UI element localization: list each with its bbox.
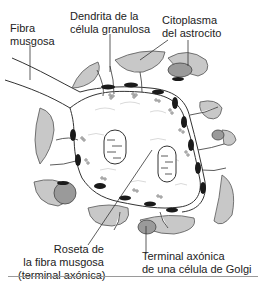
mossy-fiber-axon xyxy=(12,58,80,92)
label-line: célula granulosa xyxy=(70,23,150,36)
label-line: la fibra musgosa xyxy=(18,256,104,269)
label-line: Dendrita de la xyxy=(70,10,150,23)
bottom-divider xyxy=(8,276,258,277)
label-line: musgosa xyxy=(10,35,55,48)
label-astrocyte-cytoplasm: Citoplasma del astrocito xyxy=(162,14,221,40)
label-line: del astrocito xyxy=(162,27,221,40)
label-line: Fibra xyxy=(10,22,55,35)
label-granule-dendrite: Dendrita de la célula granulosa xyxy=(70,10,150,36)
mitochondrion-1 xyxy=(104,130,126,164)
mitochondrion-2 xyxy=(158,146,176,182)
label-line: Terminal axónica xyxy=(142,250,251,263)
label-golgi-terminal: Terminal axónica de una célula de Golgi xyxy=(142,250,251,276)
label-line: Citoplasma xyxy=(162,14,221,27)
label-mossy-fiber: Fibra musgosa xyxy=(10,22,55,48)
label-line: Roseta de xyxy=(18,243,104,256)
label-line: de una célula de Golgi xyxy=(142,263,251,276)
mossy-fiber-axon-lower xyxy=(5,80,70,108)
